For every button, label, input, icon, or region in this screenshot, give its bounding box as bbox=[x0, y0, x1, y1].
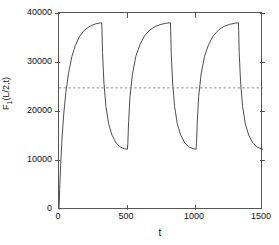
y-axis-title-rest: (L/2,t) bbox=[1, 77, 11, 101]
y-axis-title-subscript: 1 bbox=[6, 101, 13, 105]
plot-svg bbox=[59, 13, 263, 210]
chart-figure: 40000 30000 20000 10000 0 0 500 1000 150… bbox=[0, 0, 279, 245]
x-tick-label-0: 0 bbox=[55, 212, 60, 221]
x-axis-title: t bbox=[159, 228, 162, 238]
x-tick-label-1500: 1500 bbox=[251, 212, 271, 221]
data-series-curve bbox=[59, 23, 263, 210]
x-tick-label-500: 500 bbox=[118, 212, 133, 221]
y-axis-title: F1(L/2,t) bbox=[2, 77, 14, 110]
plot-area bbox=[58, 12, 262, 209]
y-axis-title-main: F bbox=[1, 105, 11, 111]
x-tick-label-1000: 1000 bbox=[184, 212, 204, 221]
